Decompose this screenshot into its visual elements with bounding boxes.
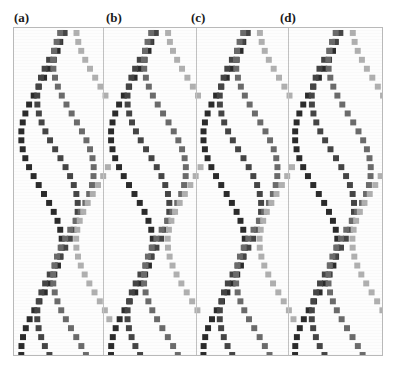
panel-label-d: (d) — [280, 10, 296, 26]
panel-label-a: (a) — [14, 10, 29, 26]
panel-label-b: (b) — [106, 10, 122, 26]
panel-traces-c — [200, 28, 296, 355]
panel-divider-2 — [196, 28, 197, 355]
figure-canvas: (a) (b) (c) (d) — [0, 0, 397, 383]
trace-b-4 — [165, 28, 204, 313]
panel-divider-1 — [103, 28, 104, 355]
panel-traces-b — [108, 28, 204, 355]
trace-c-3 — [233, 28, 280, 355]
curve-layer — [14, 28, 382, 355]
plot-area — [13, 27, 383, 356]
panel-traces-d — [292, 28, 382, 355]
trace-b-3 — [141, 28, 189, 355]
panel-traces-a — [18, 28, 112, 355]
trace-d-4 — [349, 28, 382, 313]
panel-label-c: (c) — [191, 10, 205, 26]
panel-divider-3 — [288, 28, 289, 355]
trace-d-3 — [325, 28, 373, 355]
